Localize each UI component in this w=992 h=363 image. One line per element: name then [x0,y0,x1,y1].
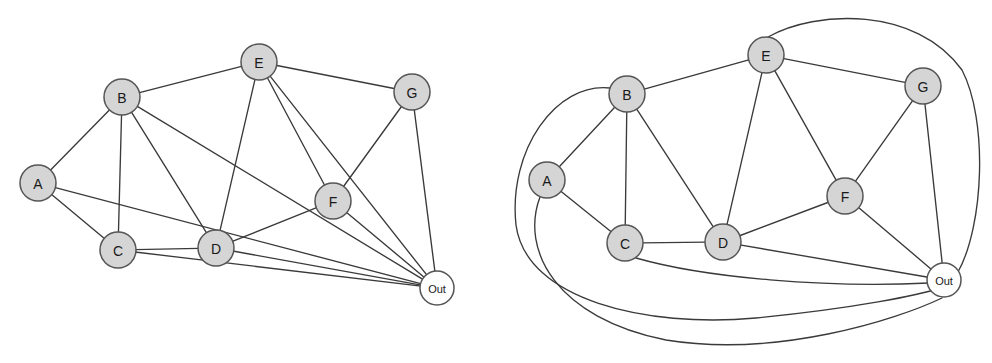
graph-node-out[interactable]: Out [420,271,454,305]
graph-node-g[interactable]: G [394,74,430,110]
graph-edge-g-out [414,109,435,272]
node-label-c: C [620,236,630,252]
graph-edge-b-c [118,114,121,233]
node-label-e: E [761,48,770,64]
graph-edge-e-out [768,18,980,272]
graph-edge-d-out [233,251,422,285]
graph-node-e[interactable]: E [748,37,784,73]
graph-edge-d-out [740,245,928,277]
node-label-b: B [117,90,126,106]
node-label-e: E [254,55,263,71]
graph-node-f[interactable]: F [315,183,351,219]
graph-edge-b-out [137,106,424,280]
graph-edge-b-d [636,108,714,227]
graph-edge-b-c [625,111,627,226]
graph-edge-d-f [232,207,317,241]
edge-layer-right [515,18,979,344]
graph-edge-g-out [925,103,942,264]
node-label-a: A [33,176,43,192]
graph-node-a[interactable]: A [529,162,565,198]
graph-edge-b-out [515,88,940,320]
graph-edge-a-b [50,109,110,171]
graph-figure: ABCDEFGOut ABCDEFGOut [0,0,992,363]
graph-node-c[interactable]: C [100,232,136,268]
graph-svg-left: ABCDEFGOut [0,0,496,363]
graph-edge-a-c [560,191,612,233]
graph-node-e[interactable]: E [241,44,277,80]
graph-edge-c-d [135,248,199,249]
graph-edge-b-e [643,60,749,90]
graph-edge-f-g [855,100,913,182]
node-label-out: Out [428,283,446,295]
graph-node-b[interactable]: B [104,79,140,115]
graph-edge-d-e [220,79,255,232]
graph-edge-f-g [343,106,402,187]
graph-node-b[interactable]: B [609,76,645,112]
node-label-c: C [113,243,123,259]
graph-edge-f-out [858,207,932,270]
panel-left-straight-line-drawing: ABCDEFGOut [0,0,496,363]
graph-node-c[interactable]: C [607,225,643,261]
graph-node-g[interactable]: G [905,68,941,104]
graph-node-f[interactable]: F [827,178,863,214]
graph-edge-e-f [774,70,836,181]
graph-node-out[interactable]: Out [927,263,961,297]
node-label-d: D [718,235,728,251]
graph-edge-b-d [131,111,207,233]
node-label-out: Out [935,275,953,287]
graph-edge-d-f [739,202,829,236]
node-layer-left: ABCDEFGOut [20,44,454,305]
node-label-g: G [407,85,418,101]
graph-svg-right: ABCDEFGOut [496,0,992,363]
graph-node-d[interactable]: D [198,230,234,266]
graph-edge-b-e [138,66,242,93]
node-label-g: G [918,79,929,95]
graph-edge-a-b [559,106,616,167]
node-label-d: D [211,241,221,257]
graph-edge-d-e [727,72,762,226]
graph-edge-c-out [636,258,929,284]
graph-edge-e-g [276,65,396,88]
graph-edge-c-out [135,252,421,286]
node-layer-right: ABCDEFGOut [529,37,961,297]
node-label-f: F [841,189,850,205]
graph-edge-e-f [267,77,325,186]
graph-node-a[interactable]: A [20,165,56,201]
node-label-b: B [622,87,631,103]
graph-node-d[interactable]: D [705,224,741,260]
graph-edge-c-d [642,242,706,243]
graph-edge-a-c [51,194,105,239]
node-label-a: A [542,173,552,189]
node-label-f: F [329,194,338,210]
panel-right-planar-embedding: ABCDEFGOut [496,0,992,363]
graph-edge-e-g [783,58,907,82]
